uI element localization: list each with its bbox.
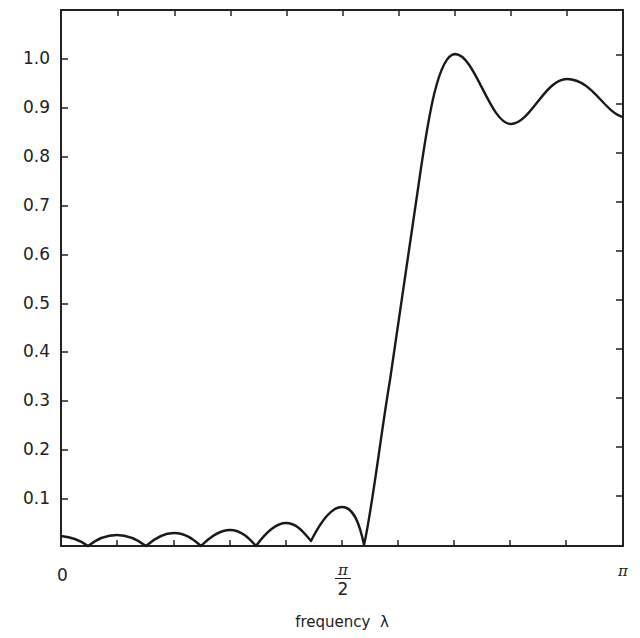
half-pi-numerator: π xyxy=(332,562,354,578)
y-tick-label-0.5: 0.5 xyxy=(0,293,50,313)
y-tick-label-0.2: 0.2 xyxy=(0,439,50,459)
y-tick-label-0.7: 0.7 xyxy=(0,195,50,215)
x-tick-label-pi: π xyxy=(618,562,628,580)
plot-frame xyxy=(61,10,623,546)
half-pi-denominator: 2 xyxy=(332,579,354,599)
y-tick-label-0.9: 0.9 xyxy=(0,97,50,117)
x-tick-label-half-pi: π 2 xyxy=(332,562,354,599)
y-ticks-left xyxy=(61,59,68,499)
chart-canvas xyxy=(0,0,640,638)
x-axis-title: frequency λ xyxy=(242,613,442,631)
y-tick-label-0.3: 0.3 xyxy=(0,390,50,410)
y-tick-label-0.1: 0.1 xyxy=(0,488,50,508)
response-curve xyxy=(61,54,623,546)
y-tick-label-1.0: 1.0 xyxy=(0,48,50,68)
x-tick-label-zero: 0 xyxy=(57,565,68,585)
y-tick-label-0.8: 0.8 xyxy=(0,146,50,166)
y-tick-label-0.4: 0.4 xyxy=(0,341,50,361)
y-ticks-right xyxy=(616,55,623,496)
y-tick-label-0.6: 0.6 xyxy=(0,244,50,264)
